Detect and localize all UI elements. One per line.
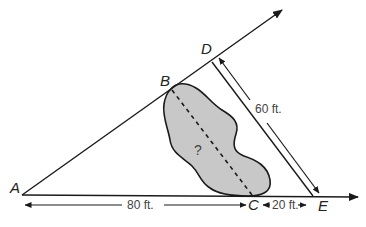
ray-ace	[22, 195, 358, 197]
label-ce-length: 20 ft.	[272, 198, 299, 212]
pond-shape	[164, 84, 271, 196]
dimension-de-lower	[267, 123, 319, 193]
label-point-e: E	[318, 197, 329, 214]
label-point-a: A	[9, 179, 20, 196]
label-ac-length: 80 ft.	[127, 198, 154, 212]
diagram-canvas: A B C D E ? 80 ft. 20 ft. 60 ft.	[0, 0, 366, 227]
label-point-b: B	[160, 72, 170, 89]
label-point-d: D	[201, 40, 212, 57]
dimension-de-upper	[219, 58, 250, 100]
label-de-length: 60 ft.	[255, 102, 282, 116]
label-point-c: C	[248, 196, 259, 213]
label-unknown-distance: ?	[194, 142, 202, 158]
